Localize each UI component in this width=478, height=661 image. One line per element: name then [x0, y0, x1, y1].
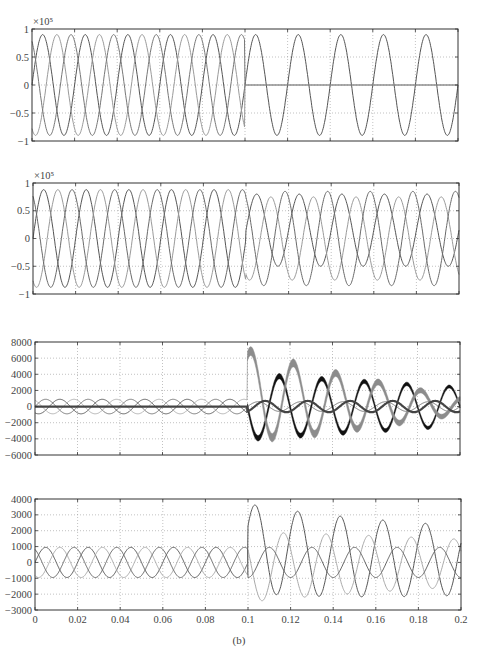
y-tick-label: 1	[24, 24, 29, 35]
y-tick-label: −0.5	[11, 261, 30, 272]
y-tick-label: 0	[27, 557, 32, 568]
y-tick-label: 2000	[11, 385, 32, 396]
y-tick-label: 0.5	[17, 205, 30, 216]
y-tick-label: −1	[18, 136, 29, 147]
y-tick-label: −4000	[5, 433, 32, 444]
y-tick-label: 0	[25, 233, 30, 244]
x-tick-label: 0.04	[111, 614, 130, 625]
y-tick-label: −3000	[5, 605, 32, 616]
x-tick-label: 0	[32, 614, 37, 625]
y-multiplier-label: ×10⁵	[34, 170, 54, 181]
x-tick-label: 0.08	[196, 614, 214, 625]
y-tick-label: −0.5	[10, 108, 29, 119]
plot-panel-3: 80006000400020000−2000−4000−6000	[5, 337, 460, 461]
x-tick-label: 0.14	[324, 614, 343, 625]
y-tick-label: 6000	[11, 353, 32, 364]
y-tick-label: 0	[27, 401, 32, 412]
y-tick-label: −2000	[5, 589, 32, 600]
y-tick-label: −1000	[5, 573, 32, 584]
y-tick-label: −1	[19, 289, 30, 300]
y-tick-label: 8000	[11, 337, 32, 348]
x-tick-label: 0.12	[281, 614, 299, 625]
y-tick-label: −2000	[5, 417, 32, 428]
y-tick-label: −6000	[5, 450, 32, 461]
x-tick-label: 0.18	[409, 614, 427, 625]
x-tick-label: 0.2	[454, 614, 467, 625]
x-tick-label: 0.16	[367, 614, 385, 625]
x-tick-label: 0.1	[241, 614, 254, 625]
x-tick-label: 0.06	[154, 614, 172, 625]
traces	[35, 347, 460, 442]
trace-band	[248, 374, 461, 441]
y-tick-label: 2000	[11, 525, 32, 536]
plot-panel-2: 10.50−0.5−1×10⁵	[11, 170, 459, 300]
y-tick-label: 0.5	[16, 52, 29, 63]
plot-panel-4: 40003000200010000−1000−2000−300000.020.0…	[5, 494, 467, 626]
plot-panel-1: 10.50−0.5−1×10⁵	[10, 16, 458, 147]
x-tick-label: 0.02	[68, 614, 86, 625]
y-tick-label: 1000	[11, 541, 32, 552]
y-tick-label: 4000	[11, 369, 32, 380]
y-tick-label: 1	[25, 178, 30, 189]
figure: 10.50−0.5−1×10⁵ 10.50−0.5−1×10⁵ 80006000…	[0, 0, 478, 661]
y-tick-label: 4000	[11, 494, 32, 505]
y-tick-label: 3000	[11, 509, 32, 520]
y-tick-label: 0	[24, 80, 29, 91]
figure-caption: (b)	[0, 634, 478, 646]
y-multiplier-label: ×10⁵	[33, 16, 53, 27]
traces	[32, 35, 458, 136]
